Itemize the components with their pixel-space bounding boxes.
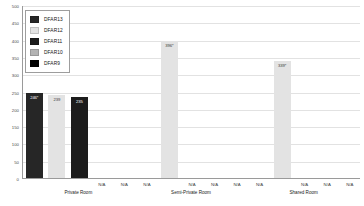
legend: DFAR13 DFAR12 DFAR11 DFAR10 DFAR9	[25, 10, 70, 73]
y-axis-tick-label: 200	[12, 107, 19, 112]
y-axis-tick-label: 150	[12, 125, 19, 130]
plot-area: 246*239235N/AN/AN/A396*N/AN/AN/AN/A339*N…	[22, 6, 360, 179]
bar-slot: N/A	[116, 6, 133, 178]
bar-slot: N/A	[296, 6, 313, 178]
y-axis-tick-label: 100	[12, 142, 19, 147]
bar-slot: N/A	[206, 6, 223, 178]
bar-slot: 396*	[161, 6, 178, 178]
bar[interactable]: 339*	[274, 61, 291, 178]
y-axis-tick-label: 500	[12, 4, 19, 9]
bar-slot: N/A	[138, 6, 155, 178]
na-label: N/A	[211, 182, 218, 187]
legend-swatch-dfar13	[30, 16, 39, 23]
y-axis-tick-label: 350	[12, 55, 19, 60]
category-label: Shared Room	[289, 190, 317, 195]
bar-value-label: 235	[76, 99, 83, 104]
legend-item[interactable]: DFAR11	[30, 36, 63, 47]
bar-slot: N/A	[93, 6, 110, 178]
na-label: N/A	[256, 182, 263, 187]
bar-value-label: 246*	[30, 95, 38, 100]
y-axis-tick-label: 50	[14, 159, 19, 164]
na-label: N/A	[346, 182, 353, 187]
legend-swatch-dfar12	[30, 27, 39, 34]
legend-item[interactable]: DFAR9	[30, 58, 63, 69]
bar-group: N/A396*N/AN/AN/A	[136, 6, 249, 178]
category-label: Semi-Private Room	[171, 190, 211, 195]
na-label: N/A	[121, 182, 128, 187]
legend-label-dfar11: DFAR11	[44, 39, 62, 44]
bar-slot: N/A	[341, 6, 358, 178]
bar-value-label: 339*	[278, 63, 286, 68]
na-label: N/A	[324, 182, 331, 187]
y-axis-tick-label: 250	[12, 90, 19, 95]
bar-slot: N/A	[229, 6, 246, 178]
bar-slot: N/A	[251, 6, 268, 178]
na-label: N/A	[98, 182, 105, 187]
legend-item[interactable]: DFAR12	[30, 25, 63, 36]
legend-label-dfar10: DFAR10	[44, 50, 63, 55]
na-label: N/A	[301, 182, 308, 187]
y-axis-ticks: 050100150200250300350400450500	[0, 0, 22, 179]
bar[interactable]: 246*	[26, 93, 43, 178]
bar-slot: N/A	[183, 6, 200, 178]
legend-swatch-dfar11	[30, 38, 39, 45]
y-axis-tick-label: 0	[17, 177, 19, 182]
bar-group: N/A339*N/AN/AN/A	[248, 6, 361, 178]
bar[interactable]: 239	[48, 95, 65, 178]
legend-swatch-dfar9	[30, 60, 39, 67]
legend-swatch-dfar10	[30, 49, 39, 56]
legend-item[interactable]: DFAR13	[30, 14, 63, 25]
na-label: N/A	[143, 182, 150, 187]
legend-item[interactable]: DFAR10	[30, 47, 63, 58]
legend-label-dfar9: DFAR9	[44, 61, 60, 66]
bar-chart: 050100150200250300350400450500 246*23923…	[0, 0, 364, 206]
bar-value-label: 239	[53, 97, 60, 102]
bar-value-label: 396*	[165, 43, 173, 48]
bar[interactable]: 396*	[161, 41, 178, 178]
bar-slot: N/A	[319, 6, 336, 178]
na-label: N/A	[233, 182, 240, 187]
x-axis-categories: Private RoomSemi-Private RoomShared Room	[22, 190, 360, 204]
y-axis-tick-label: 450	[12, 21, 19, 26]
legend-label-dfar12: DFAR12	[44, 28, 63, 33]
legend-label-dfar13: DFAR13	[44, 17, 63, 22]
bar-slot: 235	[71, 6, 88, 178]
na-label: N/A	[188, 182, 195, 187]
y-axis-tick-label: 400	[12, 38, 19, 43]
category-label: Private Room	[64, 190, 92, 195]
bar[interactable]: 235	[71, 97, 88, 178]
bars-layer: 246*239235N/AN/AN/A396*N/AN/AN/AN/A339*N…	[23, 6, 360, 178]
y-axis-tick-label: 300	[12, 73, 19, 78]
bar-slot: 339*	[274, 6, 291, 178]
